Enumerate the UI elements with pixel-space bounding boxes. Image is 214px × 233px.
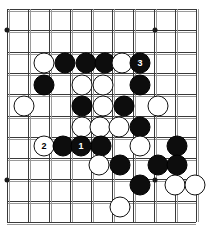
grid-line-horizontal-shadow-10 (7, 224, 196, 225)
grid-line-vertical-shadow-5 (114, 9, 115, 222)
stone-white[interactable] (185, 175, 206, 196)
stone-white[interactable] (14, 96, 35, 117)
stone-white[interactable] (89, 155, 110, 176)
stone-black[interactable] (130, 175, 151, 196)
grid-line-horizontal-shadow-1 (7, 32, 196, 33)
stone-white[interactable] (93, 75, 114, 96)
stone-white[interactable] (148, 96, 169, 117)
stone-white[interactable] (109, 117, 130, 138)
grid-line-vertical-3 (70, 9, 71, 222)
grid-line-horizontal-shadow-9 (7, 203, 196, 204)
stone-white[interactable] (72, 75, 93, 96)
grid-line-vertical-shadow-2 (51, 9, 52, 222)
stone-white[interactable] (34, 53, 55, 74)
stone-black[interactable] (110, 155, 131, 176)
stone-white[interactable] (110, 197, 131, 218)
star-point-bottom-left (5, 178, 10, 183)
grid-line-vertical-4 (91, 9, 92, 222)
grid-line-horizontal-1 (7, 30, 196, 31)
stone-move-number: 3 (137, 59, 142, 68)
stone-black[interactable] (167, 136, 188, 157)
grid-line-vertical-shadow-3 (72, 9, 73, 222)
stone-move-number: 1 (78, 142, 83, 151)
stone-black[interactable] (148, 155, 169, 176)
stone-white[interactable] (130, 136, 151, 157)
stone-black[interactable] (72, 96, 93, 117)
stone-black[interactable] (76, 53, 97, 74)
star-point-top-left (5, 28, 10, 33)
go-board[interactable]: 321 (0, 0, 214, 233)
grid-line-horizontal-shadow-0 (7, 11, 196, 12)
stone-black[interactable] (34, 75, 55, 96)
stone-white[interactable] (93, 96, 114, 117)
star-point-top-right (153, 28, 158, 33)
stone-black[interactable] (114, 96, 135, 117)
grid-line-vertical-shadow-1 (30, 9, 31, 222)
stone-black[interactable] (167, 155, 188, 176)
grid-line-vertical-5 (112, 9, 113, 222)
stone-move-number: 2 (41, 142, 46, 151)
grid-line-vertical-shadow-4 (93, 9, 94, 222)
stone-white-move-2[interactable]: 2 (34, 136, 55, 157)
grid-line-vertical-2 (49, 9, 50, 222)
stone-black[interactable] (55, 53, 76, 74)
stone-white[interactable] (90, 117, 111, 138)
stone-black-move-1[interactable]: 1 (71, 136, 92, 157)
star-point-bottom-right (153, 178, 158, 183)
stone-white[interactable] (165, 175, 186, 196)
grid-line-vertical-0 (7, 9, 8, 222)
grid-line-horizontal-9 (7, 201, 196, 202)
stone-black-move-3[interactable]: 3 (130, 53, 151, 74)
grid-line-horizontal-10 (7, 222, 196, 223)
stone-black[interactable] (91, 136, 112, 157)
grid-line-horizontal-0 (7, 9, 196, 10)
grid-line-vertical-shadow-0 (9, 9, 10, 222)
stone-black[interactable] (130, 75, 151, 96)
stone-black[interactable] (130, 117, 151, 138)
